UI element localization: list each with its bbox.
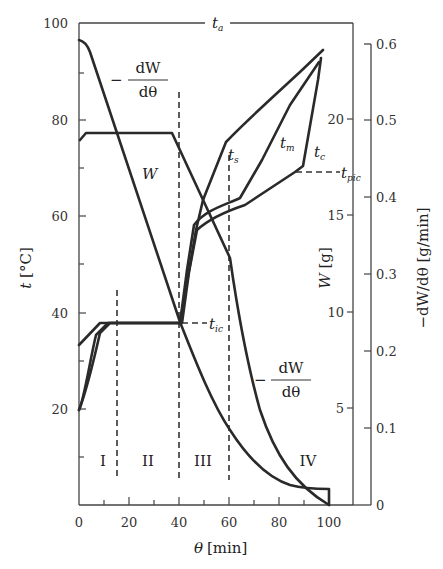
- svg-text:dθ: dθ: [139, 83, 158, 101]
- svg-text:10: 10: [327, 305, 344, 320]
- svg-text:II: II: [142, 452, 154, 470]
- tic-label: tic: [209, 315, 223, 334]
- svg-text:0.6: 0.6: [376, 37, 397, 52]
- ts-label: ts: [228, 146, 239, 165]
- x-axis-title-unit: [min]: [207, 539, 247, 557]
- svg-text:W [g]: W [g]: [316, 247, 334, 289]
- svg-text:dW: dW: [135, 59, 161, 77]
- y-left-title: t [°C]: [17, 247, 35, 289]
- w-curve-label: W: [142, 165, 159, 183]
- y-w-title: W [g]: [316, 247, 334, 289]
- svg-text:0: 0: [376, 498, 384, 513]
- svg-text:100: 100: [317, 515, 342, 530]
- svg-text:I: I: [100, 452, 106, 470]
- svg-text:−: −: [254, 371, 267, 389]
- svg-text:0.1: 0.1: [376, 421, 397, 436]
- svg-text:20: 20: [121, 515, 138, 530]
- svg-text:0.2: 0.2: [376, 344, 397, 359]
- chart: 0 20 40 60 80 100 θ [min] 100 80 60 40 2…: [0, 0, 443, 569]
- svg-text:40: 40: [51, 306, 68, 321]
- rate-curve: [80, 133, 329, 505]
- tm-label: tm: [280, 134, 295, 153]
- rate-label-upper: − dW dθ: [110, 59, 168, 101]
- svg-text:20: 20: [327, 112, 344, 127]
- y-rate-tick-labels: 0.6 0.5 0.4 0.3 0.2 0.1 0: [376, 37, 397, 513]
- y-rate-ticks: [364, 120, 371, 428]
- svg-text:0: 0: [75, 515, 83, 530]
- svg-text:15: 15: [327, 208, 344, 223]
- svg-text:100: 100: [43, 16, 68, 31]
- tm-curve: [79, 62, 319, 410]
- svg-text:0.5: 0.5: [376, 113, 397, 128]
- svg-text:20: 20: [51, 402, 68, 417]
- svg-text:60: 60: [221, 515, 238, 530]
- y-rate-title: −dW/dθ [g/min]: [414, 207, 432, 328]
- tpic-label: tpic: [341, 164, 361, 183]
- x-axis-title-symbol: θ: [194, 539, 203, 557]
- rate-label-lower: − dW dθ: [254, 359, 311, 401]
- svg-text:5: 5: [336, 401, 344, 416]
- x-ticks: [104, 497, 329, 505]
- svg-text:60: 60: [51, 209, 68, 224]
- svg-text:−: −: [110, 71, 123, 89]
- svg-text:t [°C]: t [°C]: [17, 247, 35, 289]
- x-tick-labels: 0 20 40 60 80 100: [75, 515, 342, 530]
- y-left-tick-labels: 100 80 60 40 20: [43, 16, 68, 417]
- svg-text:0.4: 0.4: [376, 190, 397, 205]
- svg-text:III: III: [194, 452, 212, 470]
- region-boundaries: [117, 92, 229, 480]
- tc-label: tc: [314, 143, 325, 162]
- svg-text:IV: IV: [300, 452, 318, 470]
- svg-text:0.3: 0.3: [376, 267, 397, 282]
- svg-text:80: 80: [51, 113, 68, 128]
- svg-text:80: 80: [271, 515, 288, 530]
- svg-text:40: 40: [171, 515, 188, 530]
- y-w-ticks: [347, 119, 353, 408]
- tc-curve: [79, 58, 321, 410]
- svg-text:dθ: dθ: [282, 383, 301, 401]
- svg-text:dW: dW: [278, 359, 304, 377]
- svg-text:−dW/dθ [g/min]: −dW/dθ [g/min]: [414, 207, 432, 328]
- ta-label: ta: [212, 14, 223, 33]
